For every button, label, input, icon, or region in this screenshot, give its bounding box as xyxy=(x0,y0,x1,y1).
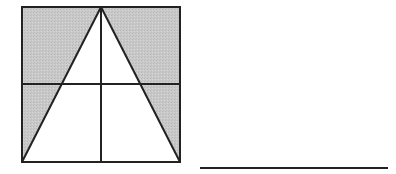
figure-canvas xyxy=(0,0,396,174)
